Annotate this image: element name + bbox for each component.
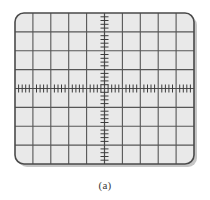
figure-caption: (a) (0, 178, 210, 192)
graticule-svg (14, 12, 197, 167)
oscilloscope-screen (14, 12, 197, 167)
figure-container: (a) (0, 0, 210, 200)
